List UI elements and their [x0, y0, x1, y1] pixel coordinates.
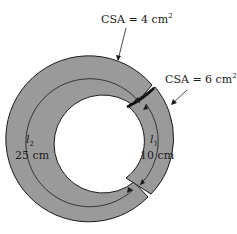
label-l1-length: 10 cm: [140, 149, 175, 162]
leader-arrow-top: [116, 55, 121, 61]
label-csa-top: CSA = 4 cm2: [101, 12, 173, 26]
magnetic-core-diagram: CSA = 4 cm2 CSA = 6 cm2 l2 25 cm l1 10 c…: [0, 0, 237, 234]
label-l2-length: 25 cm: [15, 149, 50, 162]
leader-csa-top: [118, 28, 126, 60]
label-csa-right: CSA = 6 cm2: [165, 72, 237, 86]
